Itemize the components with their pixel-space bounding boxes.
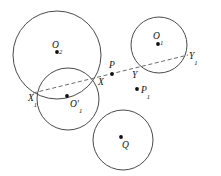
point-label-Y: Y — [132, 70, 139, 80]
point-dot-O1prime — [65, 94, 69, 98]
geometry-canvas: O2O'1O1QPP1XX1YY1 — [0, 0, 221, 176]
point-dot-Q — [119, 135, 123, 139]
circle-O2 — [13, 11, 101, 99]
point-label-P1: P1 — [140, 85, 150, 100]
point-label-O1prime: O'1 — [70, 99, 82, 114]
geometry-figure: O2O'1O1QPP1XX1YY1 — [0, 0, 221, 176]
circle-O1-prime — [37, 68, 99, 130]
circles-group — [13, 11, 187, 170]
point-label-Q: Q — [122, 140, 129, 150]
point-label-X: X — [97, 77, 105, 87]
point-label-X1: X1 — [27, 93, 37, 108]
points-group: O2O'1O1QPP1XX1YY1 — [27, 31, 198, 150]
point-dot-P — [110, 72, 114, 76]
point-label-P: P — [108, 60, 115, 70]
point-label-Y1: Y1 — [189, 51, 198, 66]
point-dot-P1 — [135, 87, 139, 91]
